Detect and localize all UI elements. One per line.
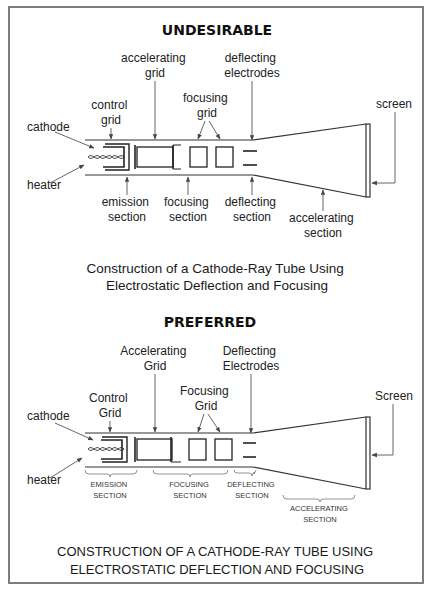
brace-emission: [85, 470, 137, 477]
label-screen: Screen: [375, 389, 413, 403]
crt-tube-lower: [85, 417, 370, 489]
brace-accelerating: [283, 495, 355, 502]
label-accelerating-section: ACCELERATING SECTION: [290, 504, 350, 524]
crt-comparison-diagram: UNDESIRABLE accelerating: [0, 0, 434, 594]
label-screen: screen: [376, 97, 412, 111]
label-control-grid: Control Grid: [89, 391, 131, 420]
label-focusing-section: FOCUSING SECTION: [169, 480, 211, 500]
label-focusing-section: focusing section: [164, 195, 212, 224]
heading-preferred: PREFERRED: [164, 314, 256, 330]
label-cathode: cathode: [27, 409, 70, 423]
label-deflecting-electrodes: Deflecting Electrodes: [223, 344, 280, 373]
diagram-undesirable: UNDESIRABLE accelerating: [27, 22, 412, 293]
screen-glass-upper: [366, 124, 370, 197]
label-cathode: cathode: [27, 120, 70, 134]
label-emission-section: EMISSION SECTION: [91, 480, 130, 500]
label-heater: heater: [27, 473, 61, 487]
brace-deflecting: [234, 470, 256, 476]
cathode-heater-coil: [88, 156, 124, 159]
label-deflecting-section: deflecting section: [225, 195, 280, 224]
labels-upper: accelerating grid deflecting electrodes …: [27, 51, 412, 240]
electrodes-lower: [88, 437, 256, 462]
label-deflecting-section: DEFLECTING SECTION: [227, 480, 277, 500]
labels-lower: Accelerating Grid Deflecting Electrodes …: [27, 344, 413, 524]
crt-tube-upper: [85, 124, 370, 197]
label-focusing-grid: focusing grid: [183, 91, 231, 120]
label-deflecting-electrodes: deflecting electrodes: [224, 51, 279, 80]
control-grid-outer: [105, 144, 129, 170]
brace-focusing: [153, 470, 228, 477]
diagram-preferred: PREFERRED Accelerating Grid: [27, 314, 413, 577]
label-accelerating-grid: accelerating grid: [121, 51, 189, 80]
caption-undesirable: Construction of a Cathode-Ray Tube Using…: [86, 261, 347, 293]
label-accelerating-grid: Accelerating Grid: [120, 344, 189, 373]
screen-glass-lower: [366, 417, 370, 489]
heading-undesirable: UNDESIRABLE: [162, 22, 272, 38]
label-focusing-grid: Focusing Grid: [180, 384, 232, 413]
label-accelerating-section: accelerating section: [289, 211, 357, 240]
electrodes-upper: [88, 144, 257, 170]
label-control-grid: control grid: [91, 98, 130, 127]
cathode-heater-coil: [88, 448, 124, 451]
caption-preferred: CONSTRUCTION OF A CATHODE-RAY TUBE USING…: [57, 544, 377, 577]
label-emission-section: emission section: [102, 195, 153, 224]
